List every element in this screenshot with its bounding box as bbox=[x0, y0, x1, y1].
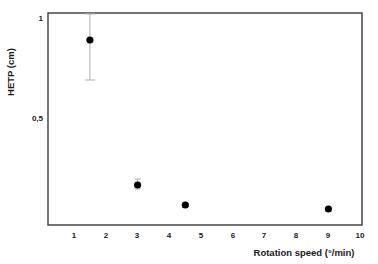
y-axis-title: HETP (cm) bbox=[5, 48, 16, 96]
x-tick-label-2: 2 bbox=[104, 231, 109, 240]
x-axis-title: Rotation speed (°/min) bbox=[254, 247, 355, 258]
hetp-rotation-speed-scatter-chart: HETP (cm) 1 0,5 1 2 3 4 5 6 7 8 9 10 Rot… bbox=[0, 0, 378, 264]
x-tick-label-3: 3 bbox=[135, 231, 140, 240]
data-point bbox=[325, 205, 332, 212]
x-tick-label-4: 4 bbox=[167, 231, 172, 240]
x-tick-label-10: 10 bbox=[356, 231, 365, 240]
x-tick-label-5: 5 bbox=[199, 231, 204, 240]
data-point bbox=[182, 201, 189, 208]
y-tick-label-0.5: 0,5 bbox=[32, 114, 44, 123]
data-point bbox=[134, 181, 141, 188]
data-point bbox=[86, 36, 93, 43]
x-tick-label-9: 9 bbox=[326, 231, 331, 240]
x-tick-label-7: 7 bbox=[262, 231, 267, 240]
x-tick-label-8: 8 bbox=[294, 231, 299, 240]
y-tick-label-1: 1 bbox=[39, 14, 44, 23]
x-tick-label-6: 6 bbox=[231, 231, 236, 240]
x-tick-label-1: 1 bbox=[72, 231, 77, 240]
